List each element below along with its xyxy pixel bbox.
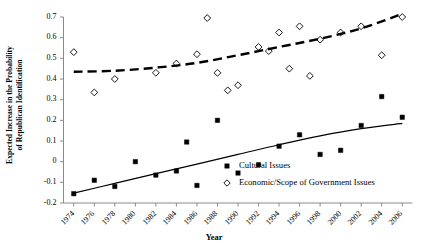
data-point-economic (296, 23, 303, 30)
data-point-cultural (400, 115, 404, 119)
data-point-economic (204, 15, 211, 22)
data-point-economic (306, 73, 313, 80)
legend-item-economic: Economic/Scope of Government Issues (222, 177, 375, 188)
y-tick-label: 0.6 (33, 32, 57, 41)
data-point-cultural (92, 178, 96, 182)
open-diamond-icon (222, 178, 232, 188)
data-point-cultural (113, 184, 117, 188)
data-point-cultural (297, 133, 301, 137)
data-point-economic (111, 76, 118, 83)
data-point-economic (255, 44, 262, 51)
data-point-cultural (318, 152, 322, 156)
y-tick-label: 0.1 (33, 136, 57, 145)
data-point-economic (224, 87, 231, 94)
data-point-cultural (154, 173, 158, 177)
data-point-economic (276, 29, 283, 36)
data-point-cultural (359, 123, 363, 127)
data-point-cultural (72, 192, 76, 196)
data-point-cultural (184, 140, 188, 144)
data-point-cultural (236, 171, 240, 175)
y-tick-label: -0.2 (33, 198, 57, 207)
filled-square-icon (222, 161, 232, 171)
data-point-economic (194, 51, 201, 58)
data-point-economic (286, 65, 293, 72)
data-point-economic (358, 23, 365, 30)
data-point-cultural (277, 144, 281, 148)
y-tick-label: 0.7 (33, 12, 57, 21)
chart-figure: Expected Increase in the Probability of … (0, 0, 428, 251)
data-point-cultural (215, 118, 219, 122)
data-point-economic (378, 52, 385, 59)
data-point-cultural (174, 169, 178, 173)
y-tick-label: 0.2 (33, 115, 57, 124)
data-point-cultural (133, 159, 137, 163)
data-point-economic (91, 89, 98, 96)
x-axis-label: Year (0, 233, 428, 242)
legend-label: Economic/Scope of Government Issues (239, 177, 375, 187)
y-tick-label: 0.4 (33, 74, 57, 83)
data-point-economic (214, 69, 221, 76)
data-point-cultural (195, 183, 199, 187)
y-tick-label: -0.1 (33, 177, 57, 186)
y-tick-label: 0 (33, 156, 57, 165)
y-tick-label: 0.3 (33, 94, 57, 103)
data-point-economic (235, 82, 242, 89)
data-point-cultural (380, 94, 384, 98)
legend-item-cultural: Cultural Issues (222, 160, 290, 171)
data-point-cultural (338, 148, 342, 152)
legend-label: Cultural Issues (239, 160, 290, 170)
y-tick-label: 0.5 (33, 53, 57, 62)
data-point-economic (152, 69, 159, 76)
data-point-economic (399, 14, 406, 21)
data-point-economic (70, 49, 77, 56)
trendline-economic (74, 14, 402, 72)
